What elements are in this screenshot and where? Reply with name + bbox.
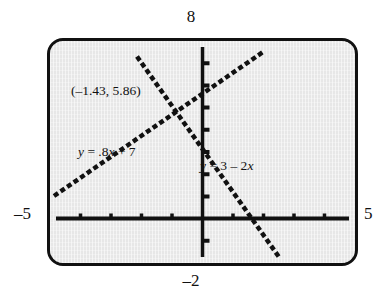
x-max-label: 5 [364,205,373,222]
y-max-label: 8 [0,8,382,25]
y-min-label: –2 [0,272,382,289]
x-min-label: –5 [14,205,31,222]
equation-2-variable: x [247,158,253,173]
equation-2-label: y = 3 – 2x [200,159,253,173]
equation-1-operator: = .8 [84,144,109,159]
calculator-screen: (–1.43, 5.86) y = .8x + 7 y = 3 – 2x [47,38,358,266]
graphing-calculator-figure: 8 –2 –5 5 [0,0,382,302]
equation-2-operator: = 3 – 2 [206,158,247,173]
intersection-point-label: (–1.43, 5.86) [71,84,141,98]
equation-1-constant: + 7 [115,144,136,159]
line-y-equals-point8x-plus-7 [54,52,263,196]
equation-1-label: y = .8x + 7 [78,145,136,159]
